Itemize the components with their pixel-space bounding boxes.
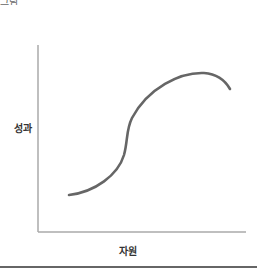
bottom-divider	[0, 266, 257, 268]
x-axis-label: 자원	[119, 243, 137, 258]
s-curve-diagram	[0, 0, 257, 269]
performance-curve	[69, 73, 230, 195]
y-axis-label: 성과	[14, 120, 32, 135]
